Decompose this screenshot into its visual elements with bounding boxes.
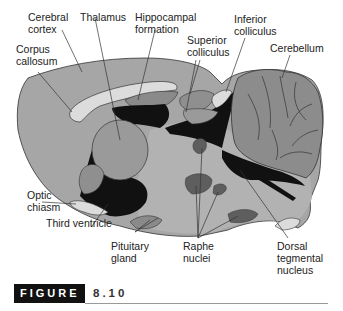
- label-superior-colliculus: Superior colliculus: [187, 34, 230, 58]
- label-cerebral-cortex: Cerebral cortex: [28, 11, 68, 35]
- label-inferior-colliculus: Inferior colliculus: [234, 13, 277, 37]
- label-pituitary-gland: Pituitary gland: [111, 240, 149, 264]
- figure-rule: [85, 303, 328, 304]
- label-third-ventricle: Third ventricle: [46, 217, 112, 229]
- figure-label: FIGURE: [14, 284, 85, 303]
- label-raphe-nuclei: Raphe nuclei: [183, 240, 214, 264]
- raphe-nucleus-1: [193, 138, 206, 153]
- label-corpus-callosum: Corpus callosum: [16, 43, 57, 67]
- label-optic-chiasm: Optic chiasm: [27, 189, 60, 213]
- figure-number: 8.10: [93, 284, 127, 303]
- label-thalamus: Thalamus: [80, 11, 126, 23]
- label-dorsal-tegmental-nucleus: Dorsal tegmental nucleus: [277, 240, 323, 276]
- label-cerebellum: Cerebellum: [270, 42, 324, 54]
- label-hippocampal-formation: Hippocampal formation: [135, 11, 196, 35]
